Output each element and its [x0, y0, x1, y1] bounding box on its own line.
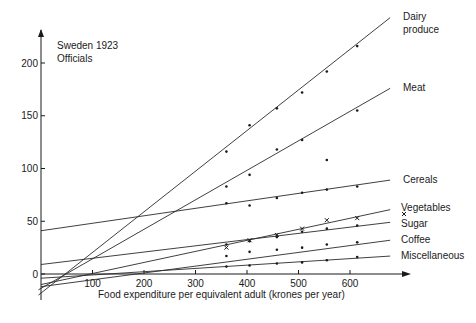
series-label-vegetables: Vegetables: [401, 202, 451, 213]
dot-marker-icon: [225, 243, 228, 246]
dot-marker-icon: [276, 197, 279, 200]
dot-marker-icon: [276, 148, 279, 151]
x-tick-label: 300: [187, 278, 204, 289]
y-axis-arrow-icon: [38, 29, 44, 37]
dot-marker-icon: [225, 202, 228, 205]
series-label-dairy-produce: Dairy: [403, 11, 426, 22]
dot-marker-icon: [248, 174, 251, 177]
y-tick-label: 50: [27, 216, 39, 227]
dot-marker-icon: [326, 188, 329, 191]
dot-marker-icon: [301, 246, 304, 249]
cross-marker-icon: [325, 218, 329, 222]
series-label-cereals: Cereals: [403, 174, 437, 185]
dot-marker-icon: [356, 45, 359, 48]
dot-marker-icon: [225, 185, 228, 188]
x-tick-label: 200: [136, 278, 153, 289]
series-label-miscellaneous: Miscellaneous: [401, 250, 464, 261]
dot-marker-icon: [248, 264, 251, 267]
series-label-coffee: Coffee: [401, 234, 431, 245]
x-tick-label: 500: [290, 278, 307, 289]
y-tick-label: 150: [21, 110, 38, 121]
y-tick-label: 100: [21, 163, 38, 174]
dot-marker-icon: [276, 262, 279, 265]
dot-marker-icon: [248, 240, 251, 243]
dot-marker-icon: [301, 91, 304, 94]
dot-marker-icon: [326, 227, 329, 230]
dot-marker-icon: [225, 265, 228, 268]
dot-marker-icon: [248, 204, 251, 207]
y-tick-label: 0: [32, 269, 38, 280]
cross-marker-icon: [224, 246, 228, 250]
x-axis-label: Food expenditure per equivalent adult (k…: [98, 289, 345, 300]
dot-marker-icon: [276, 236, 279, 239]
dot-marker-icon: [326, 259, 329, 262]
dot-marker-icon: [225, 150, 228, 153]
x-tick-label: 600: [342, 278, 359, 289]
dot-marker-icon: [248, 124, 251, 127]
dot-marker-icon: [301, 191, 304, 194]
series-label-meat: Meat: [403, 82, 425, 93]
x-tick-label: 400: [239, 278, 256, 289]
axes: [38, 29, 411, 300]
series-labels: DairyproduceMeatCerealsVegetablesSugarCo…: [401, 11, 464, 261]
fit-line-sugar: [41, 222, 390, 264]
dot-marker-icon: [356, 224, 359, 227]
dot-marker-icon: [326, 243, 329, 246]
dot-marker-icon: [326, 70, 329, 73]
series-label-dairy-produce: produce: [403, 24, 440, 35]
series-label-sugar: Sugar: [401, 218, 428, 229]
chart: 100200300400500600050100150200 Dairyprod…: [0, 0, 476, 323]
dot-marker-icon: [276, 107, 279, 110]
axis-ticks: 100200300400500600050100150200: [21, 58, 358, 290]
dot-marker-icon: [301, 139, 304, 142]
dot-marker-icon: [356, 185, 359, 188]
y-tick-label: 200: [21, 58, 38, 69]
chart-subtitle: Officials: [57, 53, 92, 64]
dot-marker-icon: [326, 159, 329, 162]
fit-line-miscellaneous: [41, 256, 390, 278]
chart-title: Sweden 1923: [57, 40, 119, 51]
fit-line-cereals: [41, 180, 390, 231]
dot-marker-icon: [276, 248, 279, 251]
dot-marker-icon: [225, 255, 228, 258]
dot-marker-icon: [301, 261, 304, 264]
dot-marker-icon: [356, 109, 359, 112]
dot-marker-icon: [248, 251, 251, 254]
dot-marker-icon: [356, 256, 359, 259]
dot-marker-icon: [301, 231, 304, 234]
dot-marker-icon: [356, 241, 359, 244]
x-axis-arrow-icon: [402, 271, 411, 277]
